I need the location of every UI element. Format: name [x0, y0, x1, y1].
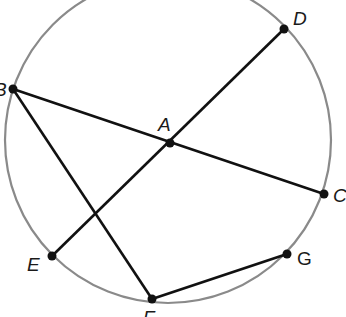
- point-f: [148, 295, 157, 304]
- point-b: [9, 85, 18, 94]
- label-c: C: [333, 185, 346, 206]
- label-e: E: [27, 254, 40, 275]
- point-d: [280, 25, 289, 34]
- point-c: [320, 190, 329, 199]
- geometry-diagram: A B C D E F G: [0, 0, 346, 317]
- label-b: B: [0, 79, 7, 100]
- point-e: [48, 252, 57, 261]
- point-a: [166, 139, 175, 148]
- point-g: [283, 250, 292, 259]
- segment-fg: [152, 254, 287, 299]
- label-d: D: [293, 8, 307, 29]
- label-f: F: [143, 307, 156, 317]
- label-a: A: [157, 114, 171, 135]
- label-g: G: [297, 248, 312, 269]
